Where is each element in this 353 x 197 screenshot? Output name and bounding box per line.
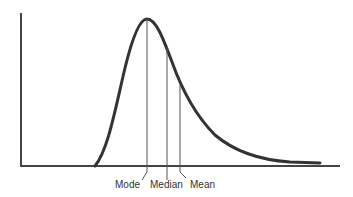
mean-label: Mean — [190, 180, 215, 190]
distribution-curve — [95, 19, 320, 166]
skewed-distribution-diagram — [0, 0, 353, 197]
mode-marker-line — [142, 19, 147, 180]
median-label: Median — [150, 180, 183, 190]
mode-label: Mode — [115, 180, 140, 190]
mean-marker-line — [180, 85, 186, 178]
